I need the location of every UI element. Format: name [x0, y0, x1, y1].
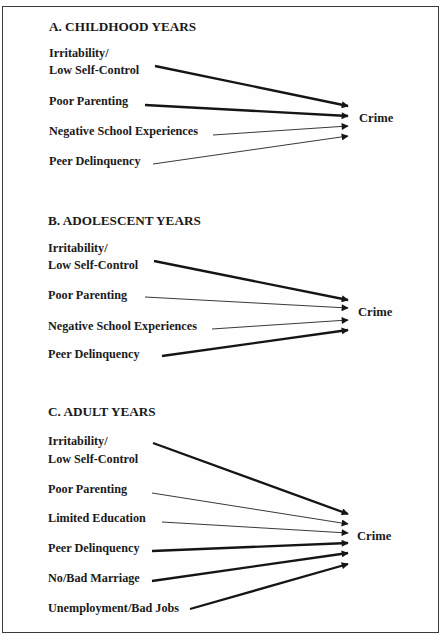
section-adult: C. ADULT YEARS Irritability/ Low Self-Co… — [48, 404, 392, 615]
arrow-strong — [152, 543, 348, 551]
arrow-strong — [155, 66, 348, 106]
arrow-strong — [162, 330, 348, 356]
section-childhood: A. CHILDHOOD YEARS Irritability/ Low Sel… — [49, 19, 394, 168]
outcome-label: Crime — [357, 529, 392, 543]
path-diagram: A. CHILDHOOD YEARS Irritability/ Low Sel… — [0, 0, 446, 644]
arrow-weak — [152, 493, 348, 524]
predictor-label: Low Self-Control — [49, 63, 140, 77]
arrow-weak — [213, 126, 348, 135]
predictor-label: Irritability/ — [48, 434, 108, 448]
predictor-label: Poor Parenting — [48, 288, 127, 302]
arrow-weak — [162, 522, 348, 533]
arrow-strong — [152, 553, 348, 581]
section-title: C. ADULT YEARS — [48, 404, 156, 419]
section-title: A. CHILDHOOD YEARS — [49, 19, 196, 34]
arrow-strong — [153, 443, 348, 514]
predictor-label: Negative School Experiences — [49, 124, 198, 138]
arrow-weak — [153, 136, 348, 164]
arrow-strong — [190, 564, 348, 609]
arrow-strong — [145, 105, 348, 116]
section-title: B. ADOLESCENT YEARS — [48, 213, 201, 228]
predictor-label: Poor Parenting — [48, 482, 127, 496]
arrow-weak — [145, 297, 348, 308]
predictor-label: Low Self-Control — [48, 258, 139, 272]
outcome-label: Crime — [358, 305, 393, 319]
predictor-label: Limited Education — [48, 511, 146, 525]
predictor-label: Low Self-Control — [48, 452, 139, 466]
predictor-label: Poor Parenting — [49, 94, 128, 108]
arrow-strong — [154, 261, 348, 300]
predictor-label: No/Bad Marriage — [48, 571, 140, 585]
predictor-label: Negative School Experiences — [48, 319, 197, 333]
predictor-label: Unemployment/Bad Jobs — [48, 601, 179, 615]
predictor-label: Irritability/ — [49, 46, 109, 60]
predictor-label: Peer Delinquency — [48, 541, 140, 555]
section-adolescent: B. ADOLESCENT YEARS Irritability/ Low Se… — [48, 213, 393, 361]
arrow-weak — [212, 320, 348, 329]
predictor-label: Peer Delinquency — [49, 154, 141, 168]
outcome-label: Crime — [359, 111, 394, 125]
predictor-label: Irritability/ — [48, 241, 108, 255]
predictor-label: Peer Delinquency — [48, 347, 140, 361]
